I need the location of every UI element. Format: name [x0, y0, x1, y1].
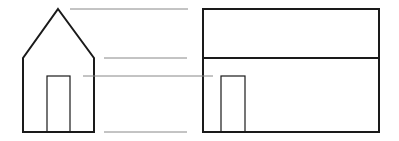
- side-door: [221, 76, 245, 132]
- house-projection-diagram: [0, 0, 399, 141]
- side-view: [203, 9, 379, 132]
- side-wall-outline: [203, 9, 379, 132]
- projection-lines: [70, 9, 213, 132]
- house-outline: [23, 9, 94, 132]
- front-door: [47, 76, 70, 132]
- front-view: [23, 9, 94, 132]
